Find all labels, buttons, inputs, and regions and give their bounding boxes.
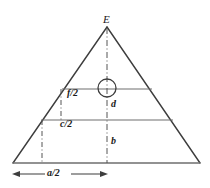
apex-label: E: [103, 14, 110, 25]
dimension-arrowhead-right: [100, 171, 108, 177]
base-half-dimension-arrow: [12, 167, 108, 181]
base-half-label: a/2: [47, 168, 60, 178]
pyramid-cross-section-figure: E f/2 c/2 d b a/2: [0, 0, 210, 188]
figure-drawing: [0, 0, 210, 188]
lower-depth-label: b: [111, 136, 116, 146]
triangle-right-edge: [107, 27, 200, 163]
dimension-arrowhead-left: [12, 171, 20, 177]
triangle-outline: [13, 27, 200, 163]
lower-chord-label: c/2: [60, 119, 72, 129]
triangle-left-edge: [13, 27, 107, 163]
upper-depth-label: d: [111, 99, 116, 109]
upper-chord-label: f/2: [67, 88, 78, 98]
